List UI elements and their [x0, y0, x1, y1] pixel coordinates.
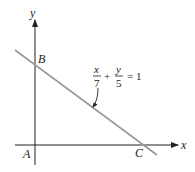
- point-label-a: A: [22, 147, 31, 161]
- eq-y: y: [115, 63, 121, 75]
- point-label-b: B: [38, 52, 46, 66]
- eq-5: 5: [116, 77, 122, 89]
- diagram-canvas: y x A B C x 7 + y 5 = 1: [0, 0, 195, 172]
- point-label-c: C: [135, 146, 144, 160]
- equation-label: x 7 + y 5 = 1: [93, 63, 141, 89]
- eq-rhs: = 1: [127, 70, 141, 82]
- y-axis-label: y: [29, 6, 36, 20]
- pointer-arrow: [93, 88, 98, 107]
- eq-7: 7: [94, 77, 100, 89]
- eq-x: x: [93, 63, 99, 75]
- eq-plus: +: [104, 70, 110, 82]
- line-graph: [15, 50, 157, 155]
- x-axis-label: x: [180, 138, 187, 152]
